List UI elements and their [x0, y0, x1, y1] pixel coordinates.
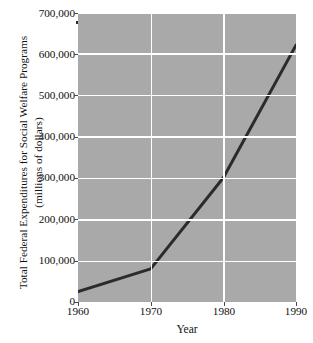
x-axis-title: Year [78, 323, 296, 335]
x-axis-tick-labels: 1960 1970 1980 1990 [0, 0, 313, 343]
x-tick-label: 1970 [121, 305, 181, 317]
x-tick-label: 1980 [194, 305, 254, 317]
chart-figure: Total Federal Expenditures for Social We… [0, 0, 313, 343]
x-tick-label: 1990 [266, 305, 313, 317]
x-tick-label: 1960 [48, 305, 108, 317]
